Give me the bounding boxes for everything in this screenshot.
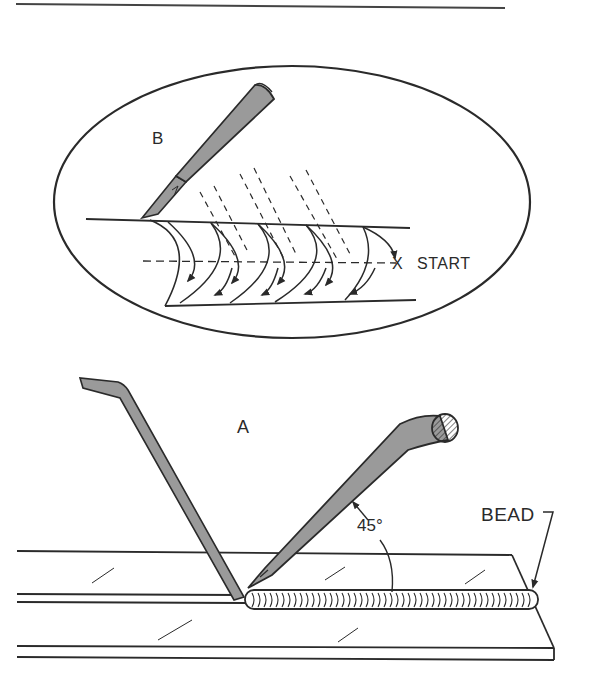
inset-ellipse-b: X — [54, 66, 530, 338]
inset-label-b: B — [152, 130, 163, 147]
filler-rod-icon — [80, 378, 244, 600]
view-label-a: A — [237, 418, 249, 436]
top-rule — [16, 4, 505, 8]
bead-label: BEAD — [481, 505, 535, 524]
diagram-canvas: X — [0, 0, 590, 682]
welding-diagram: X — [0, 0, 590, 682]
angle-label: 45° — [357, 517, 383, 534]
weld-bead — [245, 590, 538, 609]
main-view-a — [17, 378, 554, 660]
electrode-a-icon — [248, 414, 458, 588]
start-marker: X — [392, 255, 403, 272]
electrode-b-icon — [142, 84, 274, 218]
start-label: START — [417, 256, 470, 272]
